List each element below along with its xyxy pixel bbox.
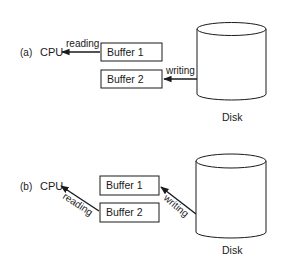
disk-cylinder <box>197 23 266 101</box>
panel-a: (a) CPU reading Buffer 1 Buffer 2 writin… <box>20 23 266 124</box>
disk-label: Disk <box>222 244 243 256</box>
disk-label: Disk <box>222 111 243 123</box>
writing-label: writing <box>165 65 195 76</box>
reading-label: reading <box>66 38 99 49</box>
disk-cylinder <box>196 154 266 238</box>
double-buffering-diagram: (a) CPU reading Buffer 1 Buffer 2 writin… <box>0 0 283 263</box>
panel-b-label: (b) <box>20 181 32 192</box>
reading-label: reading <box>61 190 95 217</box>
buffer-2-label: Buffer 2 <box>107 73 144 85</box>
buffer-2-label: Buffer 2 <box>106 206 143 218</box>
cpu-label: CPU <box>40 180 63 192</box>
buffer-1-label: Buffer 1 <box>106 179 143 191</box>
panel-a-label: (a) <box>20 47 32 58</box>
cpu-label: CPU <box>40 46 63 58</box>
writing-label: writing <box>161 191 191 219</box>
buffer-1-label: Buffer 1 <box>107 46 144 58</box>
panel-b: (b) CPU reading Buffer 1 Buffer 2 writin… <box>20 154 266 256</box>
